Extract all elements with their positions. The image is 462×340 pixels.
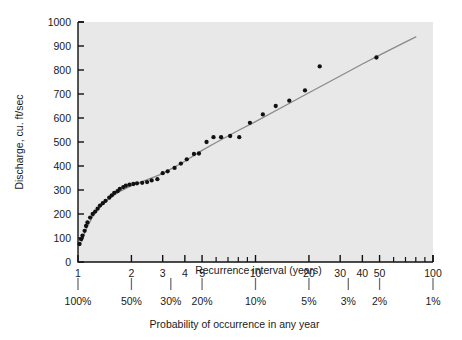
y-tick-label: 200	[53, 208, 71, 220]
data-point	[204, 140, 208, 144]
data-point	[127, 183, 131, 187]
data-point	[161, 171, 165, 175]
data-point	[80, 233, 84, 237]
x-axis-title: Recurrence interval (years)	[195, 264, 322, 276]
probability-axis-group: 100%50%30%20%10%5%3%2%1%	[65, 278, 441, 307]
y-tick-label: 1000	[48, 16, 72, 28]
data-point	[145, 180, 149, 184]
data-point	[197, 151, 201, 155]
y-tick-label: 300	[53, 184, 71, 196]
data-point	[228, 134, 232, 138]
y-tick-label: 100	[53, 232, 71, 244]
probability-tick-label: 100%	[65, 295, 92, 307]
plot-background-group	[78, 22, 433, 262]
probability-tick-label: 1%	[425, 295, 440, 307]
data-point	[179, 161, 183, 165]
figure-container: 01002003004005006007008009001000 1234510…	[0, 0, 462, 340]
probability-tick-label: 5%	[301, 295, 316, 307]
probability-tick-label: 50%	[121, 295, 142, 307]
y-tick-label: 400	[53, 160, 71, 172]
data-point	[166, 169, 170, 173]
data-point	[219, 135, 223, 139]
x-tick-label: 2	[129, 267, 135, 279]
y-tick-label: 0	[65, 256, 71, 268]
data-point	[237, 135, 241, 139]
x-tick-label: 30	[334, 267, 346, 279]
x-tick-label: 50	[374, 267, 386, 279]
data-point	[374, 55, 378, 59]
data-point	[140, 181, 144, 185]
data-point	[192, 152, 196, 156]
y-tick-label: 900	[53, 40, 71, 52]
plot-area-background	[78, 22, 433, 262]
x-tick-label: 40	[357, 267, 369, 279]
x-tick-label: 100	[424, 267, 442, 279]
data-point	[124, 184, 128, 188]
y-tick-label: 800	[53, 64, 71, 76]
x-tick-label: 1	[75, 267, 81, 279]
data-point	[318, 64, 322, 68]
data-point	[88, 215, 92, 219]
data-point	[248, 121, 252, 125]
y-tick-label: 500	[53, 136, 71, 148]
data-point	[303, 88, 307, 92]
x-tick-label: 3	[160, 267, 166, 279]
probability-tick-label: 30%	[160, 295, 181, 307]
probability-tick-label: 20%	[192, 295, 213, 307]
probability-axis-title: Probability of occurrence in any year	[150, 318, 320, 330]
data-point	[82, 229, 86, 233]
data-point	[135, 181, 139, 185]
data-point	[155, 177, 159, 181]
data-point	[85, 220, 89, 224]
data-point	[185, 157, 189, 161]
data-point	[131, 182, 135, 186]
probability-tick-label: 10%	[245, 295, 266, 307]
data-point	[274, 104, 278, 108]
data-point	[103, 199, 107, 203]
data-point	[287, 99, 291, 103]
x-tick-label: 4	[182, 267, 188, 279]
probability-tick-label: 2%	[372, 295, 387, 307]
data-point	[211, 135, 215, 139]
data-point	[172, 166, 176, 170]
probability-tick-label: 3%	[341, 295, 356, 307]
data-point	[150, 178, 154, 182]
y-tick-label: 700	[53, 88, 71, 100]
y-axis-title: Discharge, cu. ft/sec	[13, 94, 25, 189]
data-point	[261, 112, 265, 116]
discharge-recurrence-scatter-chart: 01002003004005006007008009001000 1234510…	[0, 0, 462, 340]
y-tick-label: 600	[53, 112, 71, 124]
